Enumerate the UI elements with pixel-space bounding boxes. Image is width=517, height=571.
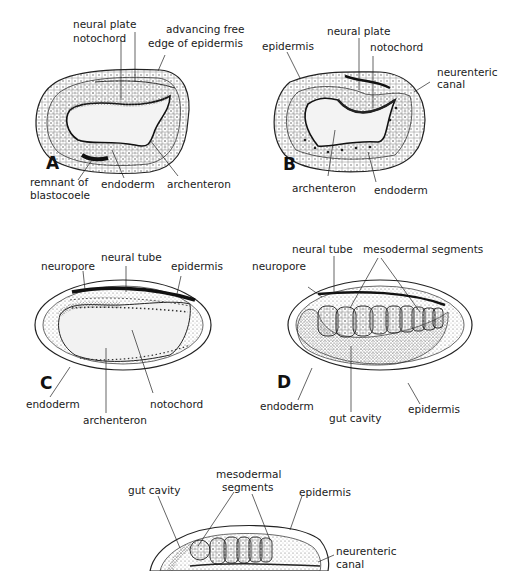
panel-letter-d: D [277,372,291,392]
label-c-neuropore: neuropore [41,260,95,272]
label-c-archenteron: archenteron [83,414,147,426]
label-a-endoderm: endoderm [101,178,155,190]
label-d-mesodermal-segments: mesodermal segments [363,243,483,255]
label-e-epidermis: epidermis [299,486,351,498]
label-e-segments: segments [222,481,274,493]
label-a-advancing-free: advancing free [166,23,244,35]
panel-d-drawing [288,256,472,412]
label-b-epidermis: epidermis [262,40,314,52]
label-c-neural-tube: neural tube [101,251,162,263]
label-c-notochord: notochord [150,398,203,410]
label-c-epidermis: epidermis [171,260,223,272]
label-e-neurenteric: neurenteric [336,545,397,557]
label-e-mesodermal: mesodermal [216,468,281,480]
label-b-endoderm: endoderm [374,184,428,196]
label-b-neural-plate: neural plate [327,25,390,37]
panel-letter-c: C [40,373,52,393]
label-a-blastocoele: blastocoele [30,189,90,201]
panel-c-drawing [35,266,211,413]
label-a-notochord: notochord [73,32,126,44]
label-d-neuropore: neuropore [252,260,306,272]
label-b-neurenteric: neurenteric [437,66,498,78]
label-d-neural-tube: neural tube [292,243,353,255]
panel-letter-b: B [283,154,296,174]
label-d-epidermis: epidermis [408,403,460,415]
label-c-endoderm: endoderm [26,398,80,410]
embryo-development-figure: neural plate notochord advancing free ed… [0,0,517,571]
panel-e-drawing [150,492,334,571]
label-a-neural-plate: neural plate [73,18,136,30]
label-e-gut-cavity: gut cavity [128,484,180,496]
label-b-notochord: notochord [370,41,423,53]
label-e-canal: canal [336,558,364,570]
label-a-edge-of-epidermis: edge of epidermis [148,37,243,49]
label-b-canal: canal [437,78,465,90]
label-b-archenteron: archenteron [292,182,356,194]
panel-letter-a: A [46,153,59,173]
panel-b-drawing [274,38,430,182]
label-a-archenteron: archenteron [167,178,231,190]
label-d-endoderm: endoderm [260,400,314,412]
label-d-gut-cavity: gut cavity [329,412,381,424]
label-a-remnant-of: remnant of [30,176,88,188]
